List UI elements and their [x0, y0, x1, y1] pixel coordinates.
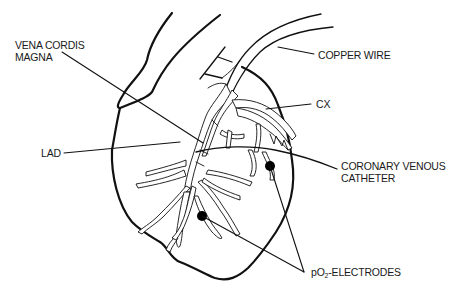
cx-side-branches	[220, 124, 274, 180]
label-cx: CX	[316, 98, 330, 110]
label-copper-wire: COPPER WIRE	[318, 49, 390, 61]
leader-lad	[64, 142, 180, 153]
heart-outline	[112, 67, 293, 279]
label-coronary-venous-catheter: CORONARY VENOUS CATHETER	[341, 160, 446, 184]
label-po2-prefix: pO	[311, 266, 325, 278]
label-lad: LAD	[41, 147, 61, 159]
copper-wire	[222, 14, 333, 104]
label-coronary-venous-catheter-line1: CORONARY VENOUS	[341, 160, 446, 172]
leader-cx	[266, 104, 311, 109]
label-vena-cordis-magna-line1: VENA CORDIS	[15, 39, 85, 51]
leader-vena-cordis-magna	[62, 52, 203, 143]
label-vena-cordis-magna-line2: MAGNA	[15, 51, 85, 63]
label-coronary-venous-catheter-line2: CATHETER	[341, 172, 446, 184]
label-po2-electrodes: pO2-ELECTRODES	[311, 266, 401, 278]
label-vena-cordis-magna: VENA CORDIS MAGNA	[15, 39, 85, 63]
leader-lines	[62, 47, 314, 272]
label-po2-suffix: -ELECTRODES	[328, 266, 400, 278]
leader-copper-wire	[278, 47, 314, 54]
diagram-canvas: VENA CORDIS MAGNA COPPER WIRE CX LAD COR…	[0, 0, 463, 290]
great-vessels	[200, 47, 240, 88]
